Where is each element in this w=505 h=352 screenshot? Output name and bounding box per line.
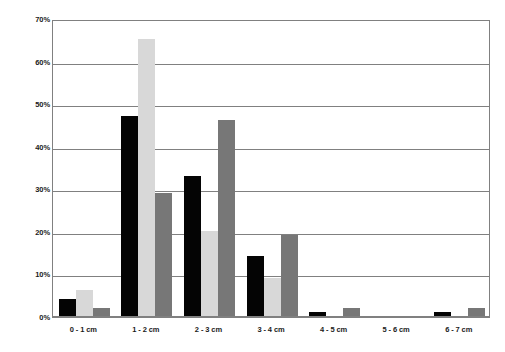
bar	[247, 256, 264, 316]
x-axis-tick-label: 3 - 4 cm	[240, 326, 303, 334]
y-axis-tick-label: 70%	[4, 16, 50, 24]
y-axis-tick-label: 60%	[4, 59, 50, 67]
x-axis-tick-label: 0 - 1 cm	[52, 326, 115, 334]
bar-group	[372, 21, 423, 316]
bar	[264, 278, 281, 316]
bar-group	[247, 21, 298, 316]
x-axis: 0 - 1 cm1 - 2 cm2 - 3 cm3 - 4 cm4 - 5 cm…	[52, 326, 490, 344]
bar-group	[121, 21, 172, 316]
y-axis-tick-label: 40%	[4, 144, 50, 152]
y-axis-tick-label: 10%	[4, 271, 50, 279]
bar	[281, 235, 298, 316]
bar-group	[184, 21, 235, 316]
bar-group	[434, 21, 485, 316]
y-axis-tick-label: 20%	[4, 229, 50, 237]
x-axis-tick-label: 4 - 5 cm	[302, 326, 365, 334]
bar	[155, 193, 172, 316]
bar	[468, 308, 485, 317]
bar	[138, 39, 155, 316]
bar	[218, 120, 235, 316]
y-axis-tick-label: 30%	[4, 186, 50, 194]
bar	[59, 299, 76, 316]
plot-area	[52, 20, 490, 318]
bar	[201, 231, 218, 316]
x-axis-tick-label: 1 - 2 cm	[115, 326, 178, 334]
y-axis-tick-label: 50%	[4, 101, 50, 109]
y-axis-tick-label: 0%	[4, 314, 50, 322]
bar	[121, 116, 138, 316]
bar	[434, 312, 451, 316]
bar	[76, 290, 93, 316]
bar-group	[59, 21, 110, 316]
bar-chart: 70%60%50%40%30%20%10%0% 0 - 1 cm1 - 2 cm…	[0, 0, 505, 352]
x-axis-tick-label: 5 - 6 cm	[365, 326, 428, 334]
bar	[343, 308, 360, 317]
bar-group	[309, 21, 360, 316]
bar	[309, 312, 326, 316]
x-axis-tick-label: 2 - 3 cm	[177, 326, 240, 334]
y-axis: 70%60%50%40%30%20%10%0%	[0, 0, 50, 352]
bar	[93, 308, 110, 317]
bar	[184, 176, 201, 316]
x-axis-tick-label: 6 - 7 cm	[427, 326, 490, 334]
